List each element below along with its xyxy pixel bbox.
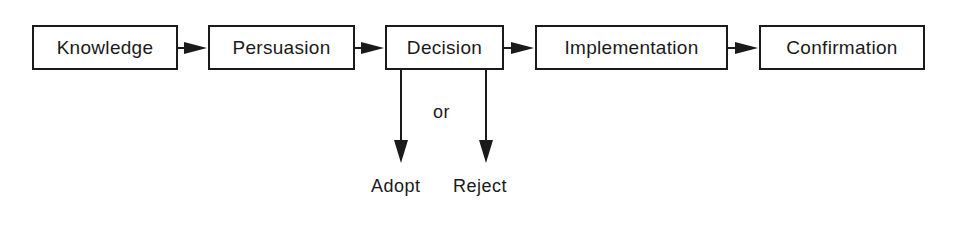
stage-decision-label: Decision <box>407 37 482 59</box>
arrow-knowledge-to-persuasion <box>177 41 207 55</box>
stage-confirmation: Confirmation <box>759 25 925 70</box>
arrow-decision-to-adopt <box>394 70 408 163</box>
stage-knowledge-label: Knowledge <box>57 37 154 59</box>
arrow-decision-to-reject <box>479 70 493 163</box>
arrow-implementation-to-confirmation <box>727 41 758 55</box>
stage-decision: Decision <box>385 25 504 70</box>
outcome-reject-label: Reject <box>453 176 507 197</box>
stage-persuasion: Persuasion <box>208 25 355 70</box>
stage-implementation: Implementation <box>535 25 728 70</box>
stage-confirmation-label: Confirmation <box>786 37 897 59</box>
arrow-persuasion-to-decision <box>354 41 384 55</box>
stage-persuasion-label: Persuasion <box>232 37 330 59</box>
outcome-adopt-label: Adopt <box>371 176 421 197</box>
or-connector-label: or <box>433 102 450 123</box>
arrow-decision-to-implementation <box>503 41 534 55</box>
stage-knowledge: Knowledge <box>32 25 178 70</box>
stage-implementation-label: Implementation <box>564 37 698 59</box>
